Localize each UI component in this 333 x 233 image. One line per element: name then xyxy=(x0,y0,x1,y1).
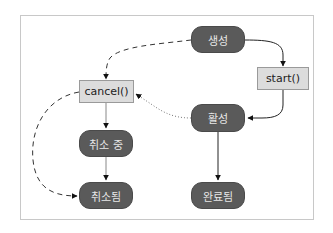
state-cancelled-label: 취소됨 xyxy=(91,188,121,204)
state-completed: 완료됨 xyxy=(191,182,245,209)
state-completed-label: 완료됨 xyxy=(203,188,233,204)
method-cancel-label: cancel() xyxy=(84,85,128,98)
state-cancelled: 취소됨 xyxy=(79,182,133,209)
state-active-label: 활성 xyxy=(208,110,228,126)
state-created-label: 생성 xyxy=(208,32,228,48)
edges-layer xyxy=(0,0,333,233)
state-created: 생성 xyxy=(191,26,245,53)
state-cancelling-label: 취소 중 xyxy=(89,136,123,152)
state-active: 활성 xyxy=(191,104,245,132)
method-cancel: cancel() xyxy=(79,80,134,103)
edge-start-active xyxy=(248,90,283,118)
method-start-label: start() xyxy=(266,72,300,85)
edge-created-start xyxy=(245,40,283,66)
edge-active-cancel xyxy=(136,94,191,118)
state-cancelling: 취소 중 xyxy=(79,130,133,157)
method-start: start() xyxy=(257,67,309,90)
edge-created-cancel xyxy=(106,40,191,79)
edge-cancel-cancelled xyxy=(33,92,79,196)
